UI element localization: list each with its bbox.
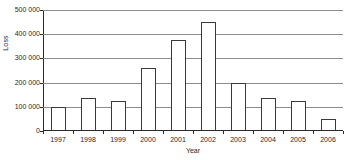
x-axis-tick-mark bbox=[73, 131, 74, 134]
x-axis-tick-mark bbox=[223, 131, 224, 134]
x-axis-tick-label: 1997 bbox=[43, 135, 73, 144]
bars-series bbox=[43, 10, 343, 131]
x-axis-tick-mark bbox=[313, 131, 314, 134]
x-axis-tick-mark bbox=[103, 131, 104, 134]
x-axis-tick-mark bbox=[283, 131, 284, 134]
bar bbox=[51, 107, 66, 131]
y-axis-tick-label: 400 000 bbox=[6, 30, 40, 38]
x-axis-tick-label: 2003 bbox=[223, 135, 253, 144]
bar bbox=[81, 98, 96, 131]
y-axis-tick-label: 100 000 bbox=[6, 103, 40, 111]
x-axis-tick-label: 2005 bbox=[283, 135, 313, 144]
x-axis-tick-label: 2002 bbox=[193, 135, 223, 144]
bar bbox=[171, 40, 186, 131]
y-axis-tick-label: 500 000 bbox=[6, 6, 40, 14]
plot-area bbox=[43, 10, 343, 131]
y-axis-tick-label: 200 000 bbox=[6, 79, 40, 87]
x-axis-tick-labels: 1997199819992000200120022003200420052006 bbox=[43, 131, 343, 145]
bar bbox=[141, 68, 156, 131]
x-axis-tick-label: 2006 bbox=[313, 135, 343, 144]
bar bbox=[201, 22, 216, 131]
bar bbox=[261, 98, 276, 131]
y-axis-tick-labels: 0100 000200 000300 000400 000500 000 bbox=[6, 0, 40, 140]
x-axis-title: Year bbox=[43, 146, 343, 155]
x-axis-tick-label: 2001 bbox=[163, 135, 193, 144]
x-axis-tick-mark bbox=[343, 131, 344, 134]
y-axis-tick-label: 300 000 bbox=[6, 54, 40, 62]
x-axis-tick-label: 2000 bbox=[133, 135, 163, 144]
x-axis-tick-label: 1999 bbox=[103, 135, 133, 144]
bar bbox=[231, 83, 246, 131]
x-axis-tick-mark bbox=[163, 131, 164, 134]
y-axis-tick-label: 0 bbox=[6, 127, 40, 135]
x-axis-tick-mark bbox=[133, 131, 134, 134]
bar-chart-figure: Loss 0100 000200 000300 000400 000500 00… bbox=[0, 0, 349, 160]
x-axis-tick-label: 1998 bbox=[73, 135, 103, 144]
x-axis-tick-label: 2004 bbox=[253, 135, 283, 144]
bar bbox=[111, 101, 126, 131]
x-axis-tick-mark bbox=[193, 131, 194, 134]
x-axis-tick-mark bbox=[253, 131, 254, 134]
bar bbox=[291, 101, 306, 131]
x-axis-tick-mark bbox=[43, 131, 44, 134]
